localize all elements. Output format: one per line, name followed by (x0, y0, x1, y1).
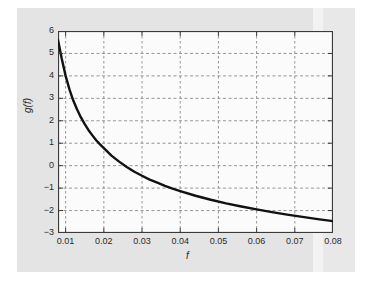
y-tick-label: 3 (34, 93, 54, 102)
y-tick-label: 4 (34, 71, 54, 80)
y-tick-label: 0 (34, 161, 54, 170)
x-tick-label: 0.02 (88, 237, 120, 246)
y-tick-label: −2 (34, 206, 54, 215)
y-tick-label: 1 (34, 138, 54, 147)
plot-svg (58, 31, 333, 233)
x-axis-label: f (186, 250, 189, 261)
y-tick-label: 6 (34, 26, 54, 35)
x-tick-label: 0.01 (50, 237, 82, 246)
y-tick-label: −3 (34, 228, 54, 237)
y-tick-label: 2 (34, 116, 54, 125)
y-axis-label: g(f) (22, 98, 33, 113)
y-tick-label: 5 (34, 48, 54, 57)
y-tick-label: −1 (34, 183, 54, 192)
figure-root: g(f) f −3−2−101234560.010.020.030.040.05… (0, 0, 374, 285)
plot-background (58, 31, 333, 233)
x-tick-label: 0.06 (241, 237, 273, 246)
plot-area (58, 31, 333, 233)
x-tick-label: 0.03 (126, 237, 158, 246)
x-tick-label: 0.07 (279, 237, 311, 246)
x-tick-label: 0.04 (164, 237, 196, 246)
x-tick-label: 0.05 (202, 237, 234, 246)
x-tick-label: 0.08 (317, 237, 349, 246)
